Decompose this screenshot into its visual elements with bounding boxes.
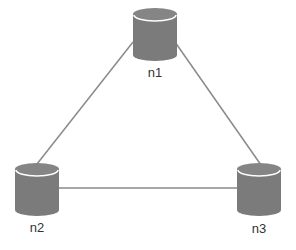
network-diagram xyxy=(0,0,296,250)
nodes-group xyxy=(15,8,281,216)
node-label-n2: n2 xyxy=(30,221,44,234)
node-n1-database-icon xyxy=(133,8,177,61)
node-label-n1: n1 xyxy=(148,66,162,79)
node-label-n3: n3 xyxy=(252,222,266,235)
edges-group xyxy=(37,42,261,188)
edge-n1-n2 xyxy=(37,42,133,164)
node-n3-database-icon xyxy=(237,163,281,216)
edge-n1-n3 xyxy=(175,42,261,165)
node-n2-database-icon xyxy=(15,163,59,216)
